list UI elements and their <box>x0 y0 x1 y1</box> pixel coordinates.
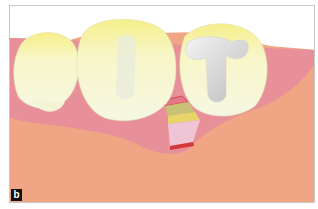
figure-frame: b <box>9 5 315 203</box>
dental-illustration <box>10 6 315 203</box>
left-tooth <box>14 33 79 109</box>
panel-label: b <box>11 189 22 201</box>
